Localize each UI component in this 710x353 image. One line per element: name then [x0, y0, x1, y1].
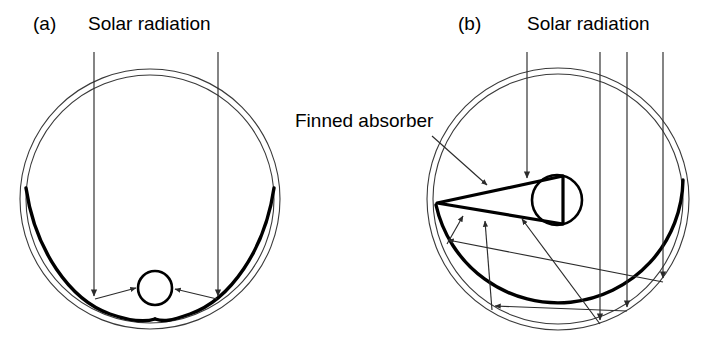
panel-a-tag: (a) [33, 13, 56, 34]
glass-tube-outer-wall-a [20, 69, 280, 329]
reflected-ray-a-2 [175, 289, 217, 299]
finned-absorber-callout: Finned absorber [295, 110, 487, 185]
panel-b: (b) Solar radiation [427, 13, 689, 330]
reflector-left-branch-a [26, 188, 155, 321]
absorber-tube-a [138, 271, 172, 305]
panel-b-tag: (b) [458, 13, 481, 34]
figure-root: (a) Solar radiation (b) Solar radiation [0, 0, 710, 353]
reflector-right-branch-a [155, 188, 274, 321]
panel-a: (a) Solar radiation [20, 13, 280, 329]
glass-tube-inner-wall-a [26, 75, 274, 323]
finned-absorber-leader-line [432, 136, 487, 185]
solar-collector-diagram: (a) Solar radiation (b) Solar radiation [0, 0, 710, 353]
reflected-ray-a-1 [95, 288, 136, 299]
panel-b-solar-radiation-label: Solar radiation [527, 13, 650, 34]
reflected-ray-b-2 [495, 306, 627, 311]
finned-absorber-label: Finned absorber [295, 110, 434, 131]
reflected-ray-b-5 [447, 216, 463, 244]
panel-a-solar-radiation-label: Solar radiation [88, 13, 211, 34]
absorber-fin-b [437, 176, 563, 224]
reflected-ray-b-4 [485, 221, 492, 310]
